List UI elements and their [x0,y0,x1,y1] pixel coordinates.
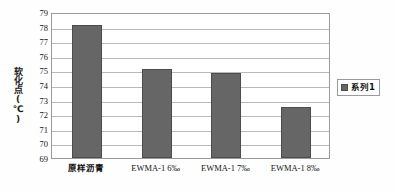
bar [281,107,311,158]
legend: 系列1 [337,79,380,96]
bar-chart: 软化点(℃) 7978777675747372717069 原样沥青EWMA-1… [0,0,395,192]
y-tick-label: 69 [26,155,48,163]
y-tick-label: 70 [26,140,48,148]
y-tick-label: 78 [26,24,48,32]
y-tick-label: 74 [26,82,48,90]
y-tick-label: 71 [26,126,48,134]
y-tick-label: 73 [26,97,48,105]
y-tick-label: 75 [26,67,48,75]
y-tick-label: 72 [26,111,48,119]
x-tick-label: 原样沥青 [51,163,121,174]
bar-series-group [52,14,329,158]
legend-entry-label: 系列1 [351,83,375,92]
legend-swatch-square-icon [341,84,348,91]
bar [211,73,241,158]
y-tick-label: 77 [26,38,48,46]
y-tick-label: 76 [26,53,48,61]
x-axis-tick-labels: 原样沥青EWMA-1 6‰EWMA-1 7‰EWMA-1 8‰ [51,163,330,183]
x-tick-label: EWMA-1 6‰ [121,163,191,174]
bar [72,25,102,158]
x-tick-label: EWMA-1 8‰ [260,163,330,174]
plot-area [51,13,330,159]
bar [142,69,172,158]
y-axis-tick-labels: 7978777675747372717069 [26,13,48,159]
y-axis-title: 软化点(℃) [10,45,24,145]
y-tick-label: 79 [26,9,48,17]
x-tick-label: EWMA-1 7‰ [191,163,261,174]
